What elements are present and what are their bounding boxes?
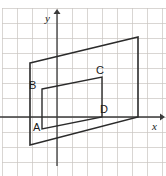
vertex-label-d: D — [100, 103, 108, 115]
vertex-label-c: C — [96, 64, 104, 76]
vertex-label-a: A — [33, 121, 41, 133]
figure-canvas: ABCD yx — [0, 0, 166, 176]
axis-label-x: x — [151, 120, 157, 132]
vertex-label-b: B — [29, 79, 36, 91]
geometry-figure: ABCD yx — [0, 0, 166, 176]
figure-background — [0, 0, 166, 176]
axis-label-y: y — [44, 12, 50, 24]
